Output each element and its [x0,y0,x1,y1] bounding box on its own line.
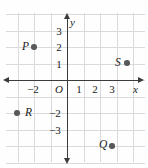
point-marker-q [109,143,115,149]
x-axis-label: x [133,84,138,95]
x-axis-arrow-right-icon [138,77,144,83]
x-tick-label: 3 [103,84,121,95]
y-axis-label: y [70,17,75,28]
y-axis-line [67,18,68,160]
y-tick-label: 2 [52,42,66,53]
point-label-q: Q [99,139,107,151]
x-tick-label: −2 [24,84,42,95]
point-label-s: S [115,57,121,69]
y-tick-label: −2 [48,108,62,119]
y-tick-label: 3 [52,26,66,37]
grid-line-horizontal [6,31,145,32]
point-marker-s [124,60,130,66]
grid-line-horizontal [6,146,145,147]
x-axis-line [8,80,139,81]
grid-line-horizontal [6,14,145,15]
origin-label: O [55,84,63,95]
grid-line-horizontal [6,163,145,164]
point-label-p: P [22,41,29,53]
coordinate-plane-figure: y x O −2123321−2−3 PSRQ [0,0,148,168]
y-axis-arrow-up-icon [64,13,70,19]
grid-line-horizontal [6,97,145,98]
y-tick-label: 1 [52,59,66,70]
y-axis-arrow-down-icon [64,158,70,164]
grid-line-vertical [18,13,19,162]
point-marker-r [14,110,20,116]
x-axis-arrow-left-icon [3,77,9,83]
point-label-r: R [25,107,32,119]
x-tick-label: 2 [86,84,104,95]
grid-line-horizontal [6,130,145,131]
point-marker-p [31,44,37,50]
y-tick-label: −3 [48,125,62,136]
